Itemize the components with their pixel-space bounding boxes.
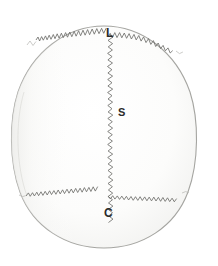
suture-label-coronal: C — [104, 207, 113, 219]
cranium-outline — [8, 24, 197, 250]
suture-label-sagittal: S — [118, 107, 125, 118]
suture-label-lambdoid: L — [106, 27, 113, 39]
skull-figure: L S C — [0, 0, 218, 266]
